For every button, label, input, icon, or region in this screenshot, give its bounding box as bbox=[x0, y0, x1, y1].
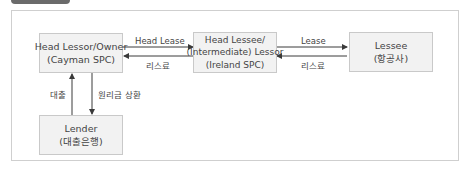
head-lessee-role: (Intermediate) Lessor bbox=[187, 46, 284, 59]
head-lessor-title: Head Lessor/Owner bbox=[35, 40, 128, 53]
node-head-lessor: Head Lessor/Owner (Cayman SPC) bbox=[39, 33, 123, 73]
node-lender: Lender (대출은행) bbox=[39, 115, 123, 155]
rent-to-lessor-label: 리스료 bbox=[301, 59, 325, 71]
lease-label: Lease bbox=[301, 36, 326, 46]
lender-title: Lender bbox=[65, 122, 98, 135]
node-head-lessee: Head Lessee/ (Intermediate) Lessor (Irel… bbox=[193, 32, 277, 73]
head-lessee-subtitle: (Ireland SPC) bbox=[206, 59, 264, 72]
node-lessee: Lessee (항공사) bbox=[349, 32, 433, 72]
head-lessee-title: Head Lessee/ bbox=[205, 34, 265, 47]
head-lessor-subtitle: (Cayman SPC) bbox=[47, 53, 115, 66]
loan-label: 대출 bbox=[50, 88, 66, 100]
repayment-label: 원리금 상환 bbox=[98, 88, 141, 100]
rent-to-owner-label: 리스료 bbox=[146, 59, 170, 71]
lessee-title: Lessee bbox=[375, 39, 408, 52]
lessee-subtitle: (항공사) bbox=[374, 52, 408, 65]
lender-subtitle: (대출은행) bbox=[59, 135, 102, 148]
head-lease-label: Head Lease bbox=[135, 36, 185, 46]
